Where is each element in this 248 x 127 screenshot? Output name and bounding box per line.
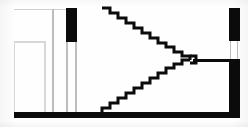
upper-stair-run xyxy=(102,8,190,60)
lower-stair-run xyxy=(102,60,190,112)
stair-geometry xyxy=(0,0,248,127)
drawing-canvas xyxy=(0,0,248,127)
